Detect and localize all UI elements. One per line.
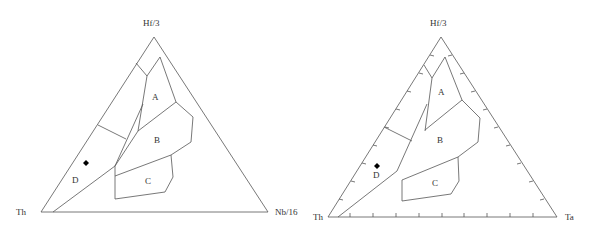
region-label-d: D — [373, 170, 380, 180]
outer-triangle — [328, 37, 557, 217]
outer-triangle — [41, 37, 268, 212]
region-label-a: A — [438, 87, 445, 97]
left-ticks — [339, 55, 434, 200]
region-label-b: B — [437, 135, 443, 145]
apex-label-top: Hf/3 — [430, 18, 447, 28]
region-label-c: C — [145, 176, 151, 186]
sample-marker-icon — [374, 163, 380, 169]
apex-label-left: Th — [16, 207, 26, 217]
apex-label-right: Ta — [565, 212, 574, 222]
right-ticks — [448, 55, 544, 200]
right-ternary — [328, 37, 557, 217]
region-label-c: C — [432, 178, 438, 188]
region-label-d: D — [72, 175, 79, 185]
apex-label-top: Hf/3 — [143, 18, 160, 28]
bottom-ticks — [350, 213, 533, 217]
apex-label-left: Th — [313, 212, 323, 222]
sample-marker-icon — [83, 160, 89, 166]
apex-label-right: Nb/16 — [275, 207, 298, 217]
region-label-a: A — [152, 92, 159, 102]
ternary-diagrams — [0, 0, 592, 233]
region-label-b: B — [154, 135, 160, 145]
left-ternary — [41, 37, 268, 212]
